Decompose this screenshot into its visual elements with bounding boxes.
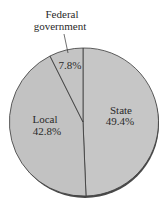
- federal-value: 7.8%: [59, 59, 82, 71]
- local-label: Local: [32, 113, 57, 125]
- federal-label-line1: Federal: [46, 8, 79, 20]
- state-value: 49.4%: [106, 115, 134, 127]
- federal-label-line2: government: [34, 20, 87, 32]
- pie-chart: Federal government 7.8% Local 42.8% Stat…: [0, 0, 168, 200]
- local-value: 42.8%: [33, 125, 61, 137]
